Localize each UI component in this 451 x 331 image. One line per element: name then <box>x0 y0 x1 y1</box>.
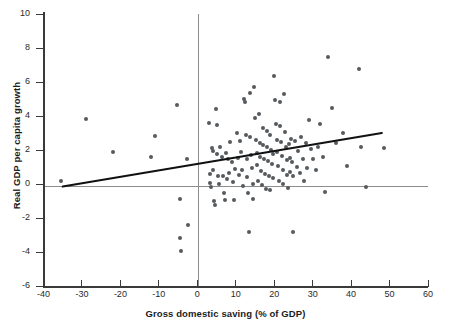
y-axis-title: Real GDP per capita growth <box>11 46 22 246</box>
chart-canvas: -6-4-20246810 -40-30-20-100102030405060 … <box>0 0 451 331</box>
x-axis-title: Gross domestic saving (% of GDP) <box>0 308 451 319</box>
regression-line <box>0 0 451 331</box>
